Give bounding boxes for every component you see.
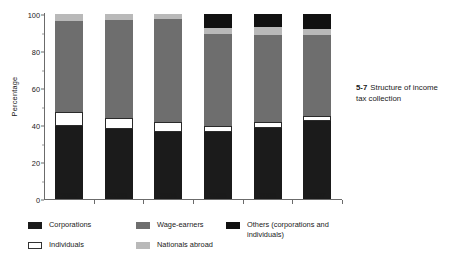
bar-segment-individuals — [154, 122, 182, 132]
y-tick-label: 80 — [32, 48, 40, 57]
y-axis-line — [44, 13, 45, 200]
bar-segment-wage-earners — [105, 20, 133, 118]
legend-label-wage-earners: Wage-earners — [157, 220, 204, 230]
legend-item-corporations: Corporations — [28, 220, 91, 230]
y-minor-tick-mark — [42, 33, 44, 34]
bar-segment-wage-earners — [154, 19, 182, 123]
x-tick-label-2003: 2003 — [110, 191, 127, 200]
y-tick-mark — [41, 163, 44, 164]
figure-caption-text: Structure of income tax collection — [356, 83, 438, 103]
figure-root: Percentage 020406080100 2002200320042005… — [0, 0, 452, 263]
bar-segment-corporations — [154, 132, 182, 199]
x-tick-label-2004: 2004 — [160, 191, 177, 200]
x-tick-mark — [243, 200, 244, 204]
figure-number: 5-7 — [356, 83, 367, 92]
bar-segment-corporations — [254, 128, 282, 199]
y-tick-mark — [41, 200, 44, 201]
bar-segment-others — [254, 14, 282, 27]
legend-item-wage-earners: Wage-earners — [136, 220, 204, 230]
x-tick-mark — [292, 200, 293, 204]
bar-2003 — [105, 14, 133, 199]
bar-segment-corporations — [105, 129, 133, 199]
legend-swatch-corporations — [28, 222, 42, 229]
y-minor-tick-mark — [42, 181, 44, 182]
legend-swatch-nationals-abroad — [136, 242, 150, 249]
y-tick-mark — [41, 89, 44, 90]
y-tick-label: 60 — [32, 85, 40, 94]
x-tick-label-2005: 2005 — [209, 191, 226, 200]
bar-segment-wage-earners — [55, 21, 83, 113]
y-tick-label: 0 — [36, 196, 40, 205]
x-tick-mark — [342, 200, 343, 204]
x-tick-label-2006: 2006 — [259, 191, 276, 200]
chart-legend: Corporations Wage-earners Others (corpor… — [28, 220, 346, 260]
y-tick-mark — [41, 15, 44, 16]
bar-segment-wage-earners — [254, 35, 282, 122]
chart-plot-area: Percentage 020406080100 2002200320042005… — [0, 0, 350, 215]
y-tick-label: 40 — [32, 122, 40, 131]
y-axis-title: Percentage — [10, 62, 19, 132]
legend-item-nationals-abroad: Nationals abroad — [136, 240, 213, 250]
legend-label-others: Others (corporations and individuals) — [247, 220, 346, 239]
legend-item-individuals: Individuals — [28, 240, 84, 250]
bar-segment-individuals — [55, 112, 83, 126]
y-tick-mark — [41, 126, 44, 127]
x-tick-label-2007: 2007 — [309, 191, 326, 200]
x-tick-label-2002: 2002 — [60, 191, 77, 200]
y-minor-tick-mark — [42, 107, 44, 108]
legend-swatch-others — [226, 222, 240, 229]
bar-2006 — [254, 14, 282, 199]
x-tick-mark — [193, 200, 194, 204]
x-tick-mark — [94, 200, 95, 204]
bar-segment-wage-earners — [204, 34, 232, 126]
legend-swatch-wage-earners — [136, 222, 150, 229]
bar-segment-corporations — [204, 132, 232, 199]
legend-label-individuals: Individuals — [49, 240, 84, 250]
y-tick-label: 20 — [32, 159, 40, 168]
bar-segment-others — [204, 14, 232, 28]
bar-2002 — [55, 14, 83, 199]
bar-segment-corporations — [303, 121, 331, 199]
bar-segment-corporations — [55, 126, 83, 199]
legend-label-nationals-abroad: Nationals abroad — [157, 240, 213, 250]
bar-2004 — [154, 14, 182, 199]
figure-caption: 5-7Structure of income tax collection — [356, 82, 448, 104]
y-tick-mark — [41, 52, 44, 53]
bar-segment-others — [303, 14, 331, 29]
bar-segment-individuals — [105, 118, 133, 129]
y-minor-tick-mark — [42, 144, 44, 145]
bar-segment-nationals-abroad — [254, 27, 282, 35]
bar-2007 — [303, 14, 331, 199]
bar-2005 — [204, 14, 232, 199]
y-tick-label: 100 — [28, 11, 40, 20]
legend-swatch-individuals — [28, 242, 42, 249]
axis-area: 020406080100 — [44, 14, 342, 200]
x-tick-mark — [143, 200, 144, 204]
bar-segment-wage-earners — [303, 35, 331, 115]
legend-label-corporations: Corporations — [49, 220, 91, 230]
y-minor-tick-mark — [42, 70, 44, 71]
legend-item-others: Others (corporations and individuals) — [226, 220, 346, 239]
